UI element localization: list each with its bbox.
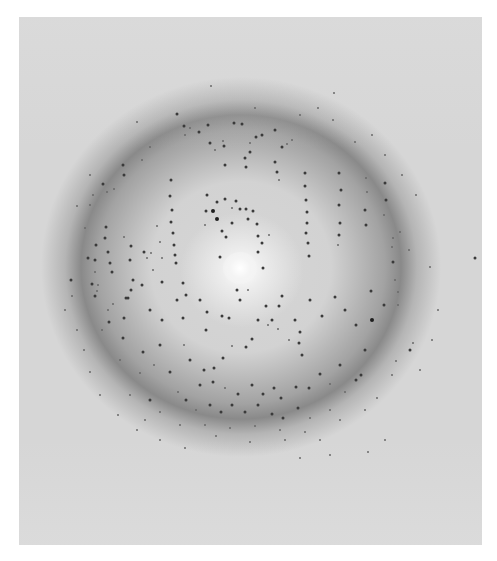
diffraction-spot [299,331,302,334]
diffraction-spot [286,143,288,145]
diffraction-spot [221,230,224,233]
diffraction-spot [146,257,148,259]
diffraction-spot [231,404,234,407]
diffraction-spot [235,200,238,203]
diffraction-spot [249,142,251,144]
diffraction-spot [207,124,210,127]
diffraction-spot [225,236,228,239]
diffraction-spot [395,360,397,362]
diffraction-spot [183,344,185,346]
diffraction-spot [279,429,281,431]
diffraction-spot [383,214,385,216]
diffraction-spot [141,284,144,287]
diffraction-spot [383,304,386,307]
diffraction-spot [291,139,293,141]
diffraction-spot [239,208,242,211]
diffraction-spot [251,384,254,387]
diffraction-spot [104,237,107,240]
diffraction-spot [176,299,179,302]
diffraction-spot [274,161,277,164]
diffraction-spot [247,218,250,221]
diffraction-spot [277,328,279,330]
diffraction-spot [101,329,103,331]
diffraction-spot [111,271,114,274]
diffraction-spot [384,439,386,441]
diffraction-spot [198,131,201,134]
diffraction-spot [209,142,212,145]
diffraction-spot [370,318,374,322]
diffraction-spot [339,222,342,225]
diffraction-spot [169,195,172,198]
diffraction-spot [239,299,242,302]
diffraction-spot [117,414,119,416]
beam-center [223,252,257,284]
diffraction-spot [149,399,152,402]
diffraction-spot [245,346,248,349]
diffraction-spot [159,241,161,243]
diffraction-spot [199,299,202,302]
diffraction-spot [161,319,164,322]
diffraction-spot [153,364,155,366]
diffraction-spot [170,221,173,224]
diffraction-spot [143,251,146,254]
diffraction-spot [257,319,260,322]
diffraction-spot [304,431,306,433]
diffraction-spot [170,179,173,182]
diffraction-spot [195,409,197,411]
diffraction-spot [142,351,145,354]
diffraction-spot [129,259,132,262]
diffraction-spot [95,244,98,247]
diffraction-spot [233,122,236,125]
diffraction-spot [159,411,161,413]
diffraction-spot [89,174,91,176]
diffraction-spot [219,256,222,259]
diffraction-spot [271,319,274,322]
diffraction-spot [319,439,321,441]
diffraction-spot [401,174,403,176]
diffraction-spot [221,315,224,318]
diffraction-spot [210,85,212,87]
diffraction-spot [262,267,265,270]
diffraction-spot [247,289,249,291]
diffraction-spot [91,283,94,286]
diffraction-spot [354,141,356,143]
diffraction-spot [294,319,297,322]
diffraction-spot [102,183,105,186]
diffraction-spot [184,134,186,136]
diffraction-spot [209,404,212,407]
diffraction-spot [231,222,234,225]
diffraction-spot [329,409,331,411]
diffraction-spot [365,224,368,227]
diffraction-spot [173,244,176,247]
diffraction-spot [97,284,99,286]
diffraction-spot [182,282,185,285]
diffraction-spot [392,237,394,239]
diffraction-spot [150,252,152,254]
diffraction-spot [107,309,109,311]
diffraction-spot [278,305,281,308]
diffraction-spot [174,254,177,257]
diffraction-spot [334,296,337,299]
diffraction-spot [274,129,277,132]
diffraction-spot [215,435,217,437]
diffraction-spot [299,457,301,459]
diffraction-spot [297,407,300,410]
diffraction-spot [249,441,251,443]
diffraction-spot [309,417,311,419]
film-shading [19,17,482,545]
diffraction-spot [87,257,90,260]
diffraction-spot [307,242,310,245]
diffraction-spot [212,381,215,384]
diffraction-spot [215,217,219,221]
diffraction-spot [130,245,133,248]
diffraction-spot [144,419,146,421]
diffraction-spot [332,119,334,121]
diffraction-spot [399,231,401,233]
diffraction-spot [106,191,108,193]
diffraction-spot [161,281,164,284]
diffraction-spot [366,191,368,193]
diffraction-spot [231,345,233,347]
diffraction-spot [132,279,135,282]
diffraction-spot [412,342,414,344]
diffraction-spot [254,425,256,427]
